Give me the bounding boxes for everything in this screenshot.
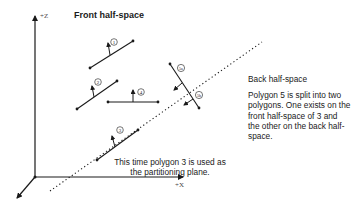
polygon-1: 1 bbox=[89, 39, 135, 70]
normal-arrow-2 bbox=[92, 86, 94, 97]
partition-note: This time polygon 3 is used as the parti… bbox=[110, 157, 230, 178]
z-axis-label: +Z bbox=[40, 12, 48, 20]
svg-text:5b: 5b bbox=[197, 93, 201, 98]
x-axis-label: +X bbox=[175, 181, 184, 189]
normal-arrow-3 bbox=[112, 136, 115, 147]
split-note: Polygon 5 is split into two polygons. On… bbox=[248, 90, 351, 141]
normal-arrow-5b bbox=[184, 99, 193, 105]
back-half-space-label: Back half-space bbox=[248, 74, 307, 84]
polygon-5: 5a 5b bbox=[169, 63, 203, 110]
svg-text:5a: 5a bbox=[179, 66, 183, 71]
front-half-space-label: Front half-space bbox=[74, 10, 144, 20]
y-axis bbox=[17, 177, 35, 198]
normal-arrow-5a bbox=[174, 83, 182, 90]
normal-arrow-1 bbox=[108, 43, 110, 55]
polygon-4: 4 bbox=[107, 89, 160, 104]
polygon-2: 2 bbox=[76, 79, 119, 111]
